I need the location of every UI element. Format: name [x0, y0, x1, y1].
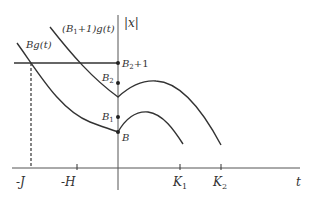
point-b2 — [116, 81, 120, 85]
horizontal-axis-label: t — [296, 175, 301, 189]
upper-curve — [50, 27, 221, 145]
label-b2: B2 — [101, 72, 114, 85]
label-b: B — [121, 132, 129, 143]
lower-curve — [17, 43, 183, 144]
vertical-axis-label: |x| — [124, 16, 139, 30]
label-b1: B1 — [101, 111, 114, 124]
point-b — [116, 130, 120, 134]
point-b1 — [116, 115, 120, 119]
tick-label-minus-j: -J — [16, 175, 26, 189]
diagram-canvas: |x| t -J -H K1 K2 Bg(t) (B1+1)g(t) B2+1 … — [0, 0, 316, 198]
upper-curve-label: (B1+1)g(t) — [62, 23, 115, 36]
tick-label-k2: K2 — [212, 175, 227, 191]
point-b2-plus-1 — [116, 61, 120, 65]
tick-label-minus-h: -H — [61, 175, 76, 189]
tick-label-k1: K1 — [172, 175, 187, 191]
lower-curve-label: Bg(t) — [25, 39, 52, 50]
label-b2-plus-1: B2+1 — [121, 58, 149, 71]
